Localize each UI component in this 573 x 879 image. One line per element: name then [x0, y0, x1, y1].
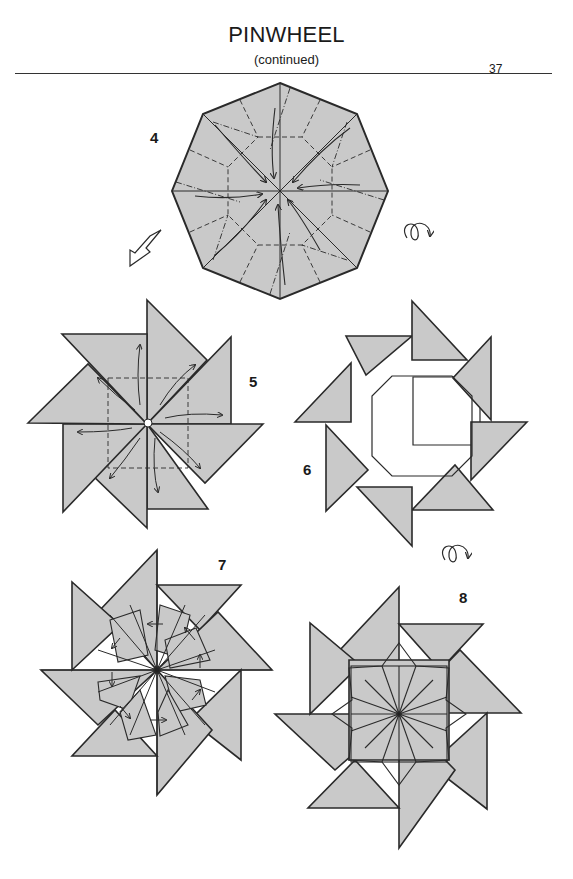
push-in-arrow-icon [130, 230, 161, 266]
diagram-canvas [0, 0, 573, 879]
step-6-diagram [295, 301, 527, 562]
turn-over-icon [404, 223, 430, 240]
turn-over-icon [442, 545, 468, 562]
step-4-diagram [130, 83, 430, 299]
step-8-diagram [275, 587, 521, 848]
step-5-diagram [28, 300, 263, 528]
step-7-diagram [41, 550, 272, 795]
